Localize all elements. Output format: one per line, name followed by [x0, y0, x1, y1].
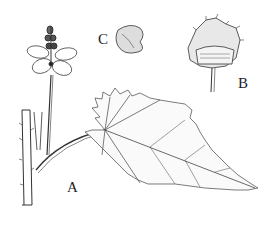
leaf — [85, 88, 258, 190]
seed — [116, 25, 143, 53]
stem — [19, 110, 42, 205]
panel-label-a: A — [67, 180, 78, 195]
inflorescence — [26, 26, 78, 155]
panel-label-c: C — [98, 32, 108, 47]
panel-label-b: B — [238, 76, 248, 91]
fruit-capsule — [188, 14, 244, 92]
botanical-illustration — [0, 0, 279, 230]
